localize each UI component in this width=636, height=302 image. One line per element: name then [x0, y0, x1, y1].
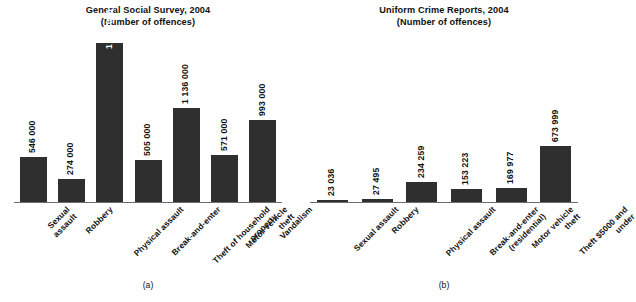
bar — [211, 155, 238, 202]
x-axis-labels-b: Sexual assaultRobberyPhysical assaultBre… — [310, 205, 578, 275]
bar-column: 505 000 — [135, 29, 162, 202]
bar-column: 169 977 — [496, 29, 527, 202]
chart-title-a-line2: (Number of offences) — [0, 17, 296, 29]
bar-value-label: 169 977 — [505, 151, 515, 183]
x-axis-label: Sexualassault — [45, 205, 79, 239]
bar-group-a: 546 000274 0001 931 000505 0001 136 0005… — [14, 29, 282, 202]
bar — [173, 108, 200, 202]
bar — [451, 189, 482, 202]
chart-panel-b: Uniform Crime Reports, 2004 (Number of o… — [296, 0, 592, 302]
plot-area-b: 23 03627 495234 259153 223169 977673 999 — [310, 28, 578, 203]
x-axis-labels-a: SexualassaultRobberyPhysical assaultBrea… — [14, 205, 282, 275]
bar — [20, 157, 47, 202]
bar-column: 673 999 — [540, 29, 571, 202]
bar — [249, 120, 276, 202]
chart-panel-a: General Social Survey, 2004 (Number of o… — [0, 0, 296, 302]
x-axis-label: Theft $5000 andunder — [577, 205, 636, 264]
chart-title-b-line1: Uniform Crime Reports, 2004 — [296, 5, 592, 17]
bar-column: 153 223 — [451, 29, 482, 202]
bar-column: 234 259 — [406, 29, 437, 202]
bar — [58, 179, 85, 202]
bar — [96, 43, 123, 202]
bar-column: 274 000 — [58, 29, 85, 202]
bar-value-label: 571 000 — [219, 118, 229, 150]
bar-value-label: 1 931 000 — [104, 9, 114, 49]
bar — [496, 188, 527, 202]
panel-caption-a: (a) — [0, 280, 296, 290]
bar-value-label: 546 000 — [27, 120, 37, 152]
x-axis-label: Robbery — [84, 205, 115, 236]
bar-value-label: 27 495 — [371, 168, 381, 196]
chart-title-a-line1: General Social Survey, 2004 — [0, 5, 296, 17]
bar-column: 993 000 — [249, 29, 276, 202]
bar — [135, 160, 162, 202]
bar-column: 1 931 000 — [96, 29, 123, 202]
bar-value-label: 234 259 — [416, 146, 426, 178]
bar — [406, 182, 437, 201]
bar — [540, 146, 571, 201]
bar-value-label: 153 223 — [461, 153, 471, 185]
panel-caption-b: (b) — [296, 280, 592, 290]
bar-value-label: 23 036 — [327, 168, 337, 196]
chart-title-b-line2: (Number of offences) — [296, 17, 592, 29]
bar-column: 1 136 000 — [173, 29, 200, 202]
bar-column: 23 036 — [317, 29, 348, 202]
bar-value-label: 505 000 — [142, 124, 152, 156]
bar-column: 546 000 — [20, 29, 47, 202]
bar-value-label: 274 000 — [66, 143, 76, 175]
bar-value-label: 993 000 — [257, 83, 267, 115]
bar-value-label: 673 999 — [550, 110, 560, 142]
x-axis-line-b — [310, 202, 578, 203]
bar-group-b: 23 03627 495234 259153 223169 977673 999 — [310, 29, 578, 202]
plot-area-a: 546 000274 0001 931 000505 0001 136 0005… — [14, 28, 282, 203]
bar-value-label: 1 136 000 — [180, 64, 190, 104]
bar-column: 571 000 — [211, 29, 238, 202]
x-axis-line-a — [14, 202, 282, 203]
bar-column: 27 495 — [362, 29, 393, 202]
